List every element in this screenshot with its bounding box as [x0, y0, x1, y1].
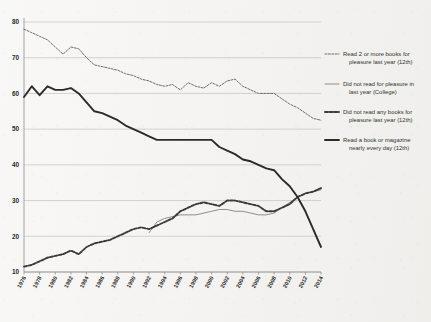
- series-line-0: [24, 29, 321, 120]
- legend-label-2-line2: pleasure last year (12th): [349, 117, 413, 123]
- x-tick-label-2006: 2006: [250, 275, 261, 289]
- legend-label-2-line1: Did not read any books for: [343, 109, 412, 115]
- x-tick-label-1976: 1976: [16, 275, 27, 289]
- x-tick-label-1982: 1982: [63, 275, 74, 289]
- x-tick-label-2010: 2010: [282, 275, 293, 289]
- x-tick-label-1990: 1990: [125, 275, 136, 289]
- legend-label-1-line1: Did not read for pleasure in: [343, 81, 414, 87]
- data-series-group: [24, 29, 321, 267]
- legend-label-0-line1: Read 2 or more books for: [343, 51, 410, 57]
- y-tick-label-60: 60: [12, 90, 20, 97]
- x-tick-label-2012: 2012: [297, 275, 308, 289]
- legend-label-3-line2: nearly every day (12th): [349, 145, 409, 151]
- legend-label-1-line2: last year (College): [349, 89, 397, 95]
- x-tick-label-1992: 1992: [141, 275, 152, 289]
- line-chart: 1020304050607080 19761978198019821984198…: [0, 0, 431, 322]
- series-line-3: [24, 86, 321, 247]
- x-tick-label-1978: 1978: [32, 275, 43, 289]
- y-tick-label-70: 70: [12, 54, 20, 61]
- y-tick-label-40: 40: [12, 161, 20, 168]
- y-tick-label-20: 20: [12, 233, 20, 240]
- x-axis-ticks: 1976197819801982198419861988199019921994…: [16, 272, 325, 289]
- legend-label-0-line2: pleasure last year (12th): [349, 59, 413, 65]
- axes-group: [24, 18, 321, 272]
- x-tick-label-1988: 1988: [110, 275, 121, 289]
- x-tick-label-2002: 2002: [219, 275, 230, 289]
- gridlines-group: [24, 22, 321, 272]
- legend-label-3-line1: Read a book or magazine: [343, 137, 411, 143]
- chart-legend: Read 2 or more books forpleasure last ye…: [325, 51, 414, 151]
- y-tick-label-50: 50: [12, 125, 20, 132]
- x-tick-label-2004: 2004: [235, 274, 247, 289]
- x-tick-label-2000: 2000: [204, 275, 215, 289]
- x-tick-label-1984: 1984: [78, 274, 90, 289]
- y-tick-label-80: 80: [12, 18, 20, 25]
- x-tick-label-1986: 1986: [94, 275, 105, 289]
- x-tick-label-2008: 2008: [266, 275, 277, 289]
- x-tick-label-1998: 1998: [188, 275, 199, 289]
- x-tick-label-1980: 1980: [47, 275, 58, 289]
- series-line-1: [149, 190, 321, 233]
- x-tick-label-1994: 1994: [157, 274, 169, 289]
- y-tick-label-30: 30: [12, 197, 20, 204]
- x-tick-label-1996: 1996: [172, 275, 183, 289]
- series-line-2: [24, 188, 321, 267]
- y-axis-ticks: 1020304050607080: [12, 18, 20, 275]
- y-tick-label-10: 10: [12, 268, 20, 275]
- x-tick-label-2014: 2014: [313, 274, 325, 289]
- chart-canvas: 1020304050607080 19761978198019821984198…: [0, 0, 431, 322]
